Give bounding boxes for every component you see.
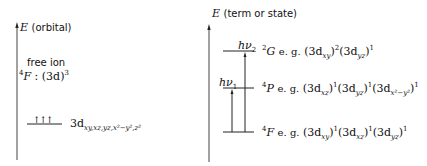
config-text: : (3d): [35, 70, 65, 83]
orbital-main: 3d: [70, 117, 84, 130]
config-part: (3d: [303, 126, 321, 139]
config-sub: yz: [357, 52, 365, 60]
level-label-2G: 2G e. g. (3dxy)2(3dyz)1: [262, 46, 374, 57]
energy-symbol: E: [212, 7, 220, 20]
config-part: (3d: [337, 82, 355, 95]
config-part: (3d: [339, 45, 357, 58]
free-ion-label: free ion: [27, 58, 65, 68]
config-sub: xz: [356, 133, 364, 141]
config-exp: 1: [414, 81, 418, 89]
orbital-label: 3dxy,xz,yz,x²−y²,z²: [70, 118, 141, 129]
config-part: (3d: [372, 82, 390, 95]
level-label-4P: 4P e. g. (3dxz)1(3dyz)1(3dx²−y²)1: [262, 83, 419, 94]
electron-arrows: ↑↑↑: [33, 116, 53, 125]
left-axis-label: E (orbital): [20, 22, 72, 33]
energy-symbol: E: [20, 21, 28, 34]
orbital-subscript: xy,xz,yz,x²−y²,z²: [84, 124, 141, 132]
eg-text: e. g.: [277, 83, 299, 94]
eg-text: e. g.: [278, 127, 300, 138]
h-nu-text: hν: [238, 39, 252, 52]
term-letter: P: [266, 82, 273, 95]
config-part: (3d: [373, 126, 391, 139]
term-letter: F: [266, 126, 274, 139]
config-exponent: 3: [64, 69, 68, 77]
config-part: (3d: [304, 45, 322, 58]
h-nu-text: hν: [219, 76, 233, 89]
config-sub: x²−y²: [391, 89, 410, 97]
right-axis-label: E (term or state): [212, 8, 297, 19]
term-letter: F: [23, 70, 31, 83]
config-sub: xz: [321, 89, 329, 97]
subscript: 2: [252, 46, 256, 54]
subscript: 1: [233, 83, 237, 91]
config-exp: 1: [403, 125, 407, 133]
eg-text: e. g.: [279, 46, 301, 57]
transition-label-1: hν1: [219, 77, 237, 88]
config-exp: 1: [369, 44, 373, 52]
axis-label-text: (term or state): [224, 8, 297, 19]
config-part: (3d: [303, 82, 321, 95]
free-ion-term: 4F : (3d)3: [19, 71, 69, 82]
level-label-4F: 4F e. g. (3dxy)1(3dxz)1(3dyz)1: [262, 127, 408, 138]
term-letter: G: [266, 45, 275, 58]
axis-label-text: (orbital): [32, 22, 72, 33]
config-sub: yz: [391, 133, 399, 141]
transition-label-2: hν2: [238, 40, 256, 51]
config-part: (3d: [338, 126, 356, 139]
